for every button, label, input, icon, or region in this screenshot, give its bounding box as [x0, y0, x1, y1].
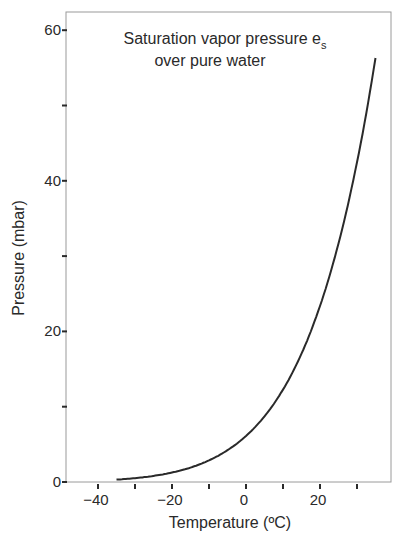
x-tick-label: −40 — [83, 491, 108, 508]
x-axis-title: Temperature (ºC) — [169, 514, 291, 531]
y-axis-ticks: 0204060 — [44, 21, 67, 490]
y-tick-label: 20 — [44, 322, 61, 339]
saturation-curve — [117, 58, 376, 480]
x-tick-label: 20 — [310, 491, 327, 508]
y-axis-title: Pressure (mbar) — [10, 200, 27, 316]
y-tick-label: 40 — [44, 172, 61, 189]
annotation-line1: Saturation vapor pressure es — [124, 30, 327, 51]
vapor-pressure-chart: 0204060 −40−20020 Saturation vapor press… — [0, 0, 405, 556]
y-tick-label: 0 — [53, 473, 61, 490]
y-tick-label: 60 — [44, 21, 61, 38]
x-tick-label: −20 — [157, 491, 182, 508]
plot-frame — [66, 12, 391, 482]
annotation-line2: over pure water — [154, 52, 266, 69]
x-tick-label: 0 — [240, 491, 248, 508]
x-axis-ticks: −40−20020 — [83, 484, 357, 508]
